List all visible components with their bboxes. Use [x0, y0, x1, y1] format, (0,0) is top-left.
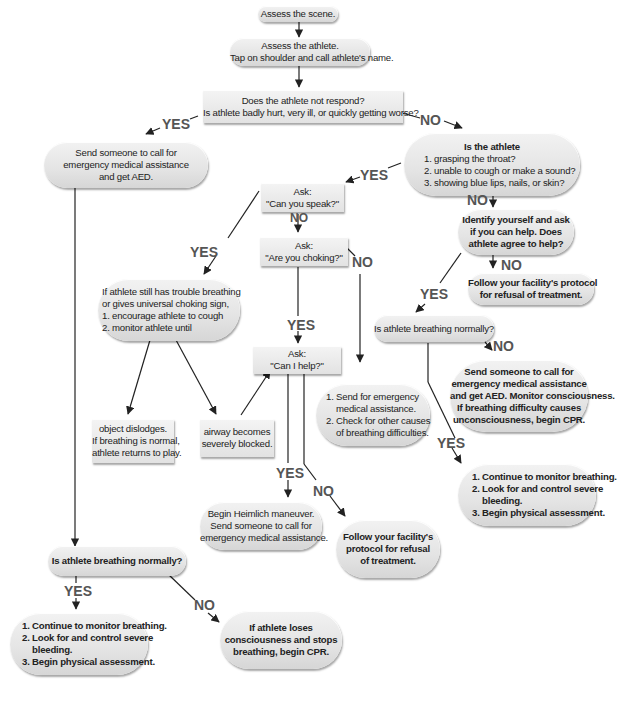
node-text: athlete agree to help? [458, 238, 574, 250]
node-text: Ask: [261, 186, 344, 198]
node-text: Begin Heimlich maneuver. [200, 508, 322, 520]
node-send-check-causes: 1. Send for emergency medical assistance… [316, 384, 430, 446]
node-text: Follow your facility's protocol [468, 277, 594, 289]
node-airway-blocked: airway becomes severely blocked. [200, 419, 274, 457]
label-no-breathing-left: NO [194, 598, 215, 612]
node-text: athlete returns to play. [92, 447, 174, 459]
label-yes-can-help: YES [276, 466, 304, 480]
node-ask-are-you-choking: Ask: "Are you choking?" [260, 237, 348, 266]
node-text: Ask: [260, 240, 348, 252]
node-text: 1. grasping the throat? [404, 153, 580, 165]
node-text: bleeding. [472, 495, 596, 507]
label-no-is-athlete: NO [467, 193, 488, 207]
node-text: emergency medical assistance [450, 378, 588, 390]
node-text: Send someone to call for [44, 147, 208, 159]
node-text: of breathing difficulties. [326, 427, 430, 439]
label-no-identify: NO [501, 258, 522, 272]
node-text: 2. Look for and control severe [22, 632, 148, 644]
node-text: Is athlete badly hurt, very ill, or quic… [203, 107, 403, 119]
node-identify-yourself: Identify yourself and ask if you can hel… [458, 209, 574, 255]
node-text: Does the athlete not respond? [203, 95, 403, 107]
node-text: of treatment. [336, 555, 440, 567]
node-send-ems-aed: Send someone to call for emergency medic… [44, 142, 208, 188]
node-loses-consciousness: If athlete loses consciousness and stops… [220, 611, 342, 669]
node-is-the-athlete: Is the athlete 1. grasping the throat? 2… [404, 133, 580, 196]
node-text: object dislodges. [92, 423, 174, 435]
node-text: bleeding. [22, 644, 148, 656]
node-text: If athlete loses [220, 622, 342, 634]
node-text: or gives universal choking sign, [102, 298, 240, 310]
node-text: severely blocked. [200, 438, 274, 450]
label-no-can-help: NO [313, 484, 334, 498]
node-text: and get AED. Monitor consciousness. [450, 390, 588, 402]
node-continue-monitor-right: 1. Continue to monitor breathing. 2. Loo… [458, 464, 596, 526]
node-breathing-normally-left: Is athlete breathing normally? [48, 546, 186, 576]
node-text: 3. showing blue lips, nails, or skin? [404, 177, 580, 189]
label-yes-are-choking: YES [287, 318, 315, 332]
node-text: If breathing is normal, [92, 435, 174, 447]
node-text: breathing, begin CPR. [220, 646, 342, 658]
node-text: Ask: [253, 348, 341, 360]
node-text: Assess the athlete. [230, 40, 370, 52]
node-text: protocol for refusal [336, 543, 440, 555]
node-text: Identify yourself and ask [458, 214, 574, 226]
node-text: "Are you choking?" [260, 252, 348, 264]
node-ask-can-i-help: Ask: "Can I help?" [253, 346, 341, 374]
label-yes-identify: YES [420, 287, 448, 301]
node-send-monitor-cpr: Send someone to call for emergency medic… [450, 360, 588, 432]
node-text: medical assistance. [326, 403, 430, 415]
node-assess-scene: Assess the scene. [258, 6, 338, 22]
node-text: "Can you speak?" [261, 198, 344, 210]
node-text: Follow your facility's [336, 531, 440, 543]
node-continue-monitor-left: 1. Continue to monitor breathing. 2. Loo… [10, 613, 148, 675]
label-no-can-speak: NO [290, 211, 308, 225]
node-assess-athlete: Assess the athlete. Tap on shoulder and … [230, 38, 370, 66]
node-text: emergency medical assistance [44, 159, 208, 171]
node-heimlich: Begin Heimlich maneuver. Send someone to… [200, 502, 322, 550]
node-text: 1. Continue to monitor breathing. [22, 620, 148, 632]
node-text: consciousness and stops [220, 634, 342, 646]
label-yes-is-athlete: YES [360, 168, 388, 182]
node-text: Is athlete breathing normally? [374, 323, 494, 335]
node-text: Send someone to call for [450, 366, 588, 378]
node-text: unconsciousness, begin CPR. [450, 414, 588, 426]
node-not-respond-decision: Does the athlete not respond? Is athlete… [203, 90, 403, 123]
node-refusal-of-treatment-1: Follow your facility's protocol for refu… [468, 273, 594, 305]
node-text: 2. Check for other causes [326, 415, 430, 427]
node-text: "Can I help?" [253, 360, 341, 372]
label-no-breathing-right: NO [493, 339, 514, 353]
label-yes-breathing-left: YES [64, 584, 92, 598]
node-text: 1. Continue to monitor breathing. [472, 471, 596, 483]
node-breathing-normally-right: Is athlete breathing normally? [374, 315, 494, 342]
node-object-dislodges: object dislodges. If breathing is normal… [92, 419, 174, 463]
node-text: 3. Begin physical assessment. [472, 507, 596, 519]
label-no-not-respond: NO [420, 113, 441, 127]
node-text: 1. encourage athlete to cough [102, 310, 240, 322]
node-text: emergency medical assistance. [200, 532, 322, 544]
label-yes-can-speak: YES [190, 245, 218, 259]
node-text: If breathing difficulty causes [450, 402, 588, 414]
node-text: 2. unable to cough or make a sound? [404, 165, 580, 177]
node-text: 3. Begin physical assessment. [22, 656, 148, 668]
node-ask-can-you-speak: Ask: "Can you speak?" [261, 183, 344, 212]
node-text: If athlete still has trouble breathing [102, 286, 240, 298]
flowchart-canvas: Assess the scene. Assess the athlete. Ta… [0, 0, 621, 714]
node-still-trouble-breathing: If athlete still has trouble breathing o… [98, 279, 240, 341]
node-title: Is the athlete [404, 141, 580, 153]
node-text: if you can help. Does [458, 226, 574, 238]
label-yes-not-respond: YES [162, 117, 190, 131]
node-text: and get AED. [44, 171, 208, 183]
node-text: 1. Send for emergency [326, 391, 430, 403]
node-refusal-of-treatment-2: Follow your facility's protocol for refu… [336, 520, 440, 578]
label-no-are-choking: NO [352, 255, 373, 269]
node-text: Send someone to call for [200, 520, 322, 532]
node-text: Is athlete breathing normally? [48, 555, 186, 567]
node-text: 2. monitor athlete until [102, 322, 240, 334]
node-text: Tap on shoulder and call athlete's name. [230, 52, 370, 64]
label-yes-breathing-right: YES [437, 436, 465, 450]
node-text: airway becomes [200, 426, 274, 438]
node-text: for refusal of treatment. [468, 289, 594, 301]
node-text: 2. Look for and control severe [472, 483, 596, 495]
node-text: Assess the scene. [258, 8, 338, 20]
